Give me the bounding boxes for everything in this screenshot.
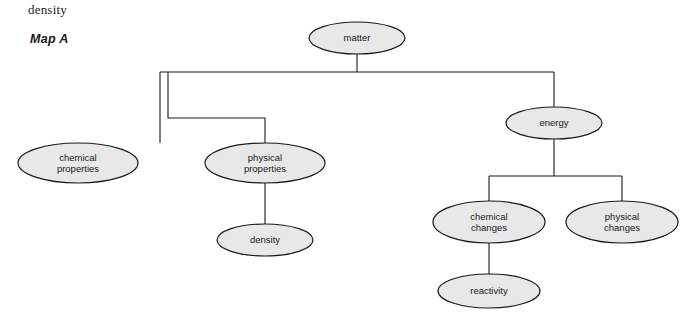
node-label: properties (57, 163, 99, 174)
node-label: energy (539, 117, 568, 128)
edge-bus-to-physical-properties (168, 72, 265, 143)
node-label: changes (604, 222, 640, 233)
node-matter[interactable]: matter (309, 22, 405, 54)
node-label: density (250, 234, 280, 245)
node-label: matter (344, 32, 371, 43)
concept-map-graphic: matterenergychemicalpropertiesphysicalpr… (0, 0, 693, 321)
node-density[interactable]: density (217, 224, 313, 256)
node-chemical_changes[interactable]: chemicalchanges (433, 201, 545, 243)
node-label: changes (471, 222, 507, 233)
node-label: chemical (470, 211, 508, 222)
node-reactivity[interactable]: reactivity (438, 274, 540, 308)
node-chemical_properties[interactable]: chemicalproperties (18, 143, 138, 183)
node-physical_properties[interactable]: physicalproperties (205, 143, 325, 183)
node-label: physical (605, 211, 639, 222)
node-physical_changes[interactable]: physicalchanges (566, 201, 678, 243)
node-label: properties (244, 163, 286, 174)
node-label: physical (248, 152, 282, 163)
nodes-group: matterenergychemicalpropertiesphysicalpr… (18, 22, 678, 308)
node-label: reactivity (470, 285, 508, 296)
node-energy[interactable]: energy (506, 107, 602, 139)
concept-map-page: density Map A matterenergychemicalprop (0, 0, 693, 321)
node-label: chemical (59, 152, 97, 163)
